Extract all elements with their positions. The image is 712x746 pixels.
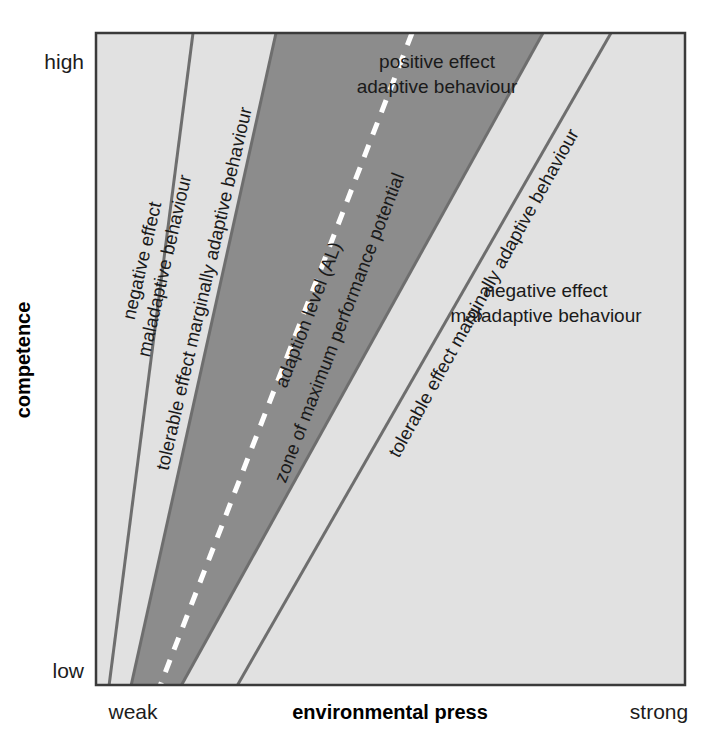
y-axis-title: competence <box>12 302 34 419</box>
x-axis-strong-label: strong <box>630 700 688 723</box>
x-axis-title: environmental press <box>292 701 488 723</box>
lower-right-outer-line1: negative effect <box>484 280 608 301</box>
center-zone-line2: adaptive behaviour <box>357 76 518 97</box>
x-axis-weak-label: weak <box>107 700 158 723</box>
lower-right-outer-line2: maladaptive behaviour <box>450 305 642 326</box>
y-axis-high-label: high <box>44 50 84 73</box>
competence-press-diagram: negative effect maladaptive behaviour to… <box>0 0 712 746</box>
y-axis-title-group: competence <box>12 302 34 419</box>
center-zone-line1: positive effect <box>379 51 496 72</box>
y-axis-low-label: low <box>52 659 84 682</box>
